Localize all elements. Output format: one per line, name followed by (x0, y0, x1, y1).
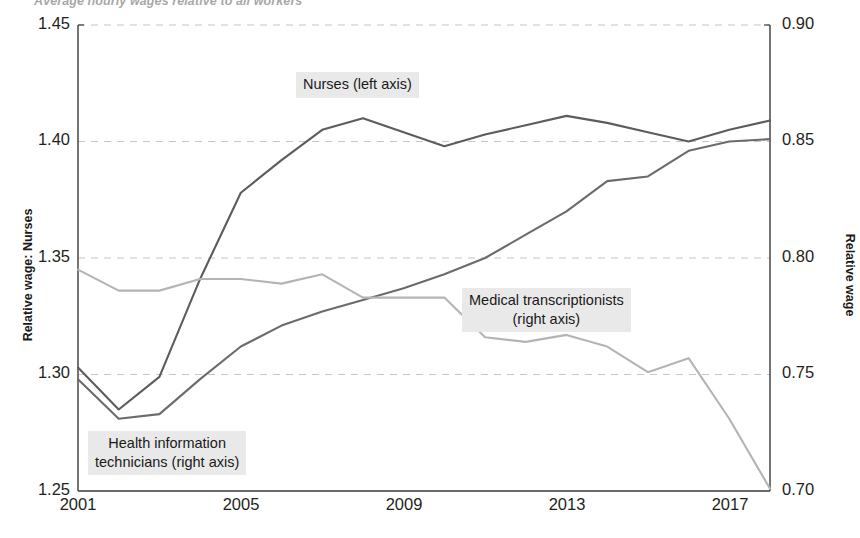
series-line-1 (78, 139, 770, 419)
chart-figure: Average hourly wages relative to all wor… (0, 0, 860, 538)
annotation-transcriptionists: Medical transcriptionists (right axis) (462, 288, 631, 332)
annotation-nurses: Nurses (left axis) (296, 72, 419, 98)
annotation-technicians: Health information technicians (right ax… (88, 431, 246, 475)
